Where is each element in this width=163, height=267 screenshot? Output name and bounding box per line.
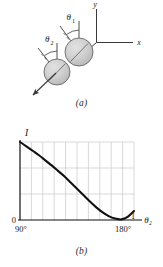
figure-container: y x θ 1 θ 2 bbox=[0, 0, 163, 267]
panel-b-caption: (b) bbox=[0, 246, 163, 256]
coordinate-axes bbox=[89, 9, 133, 49]
y-axis-label: I bbox=[24, 128, 29, 138]
x-tick-90: 90° bbox=[15, 224, 27, 234]
y-tick-1: 1 bbox=[131, 212, 135, 221]
theta1-label: θ 1 bbox=[67, 12, 76, 24]
theta2-label: θ 2 bbox=[45, 34, 54, 46]
theta2-symbol: θ bbox=[45, 34, 50, 44]
axis-label-y: y bbox=[92, 0, 97, 9]
upper-ball bbox=[65, 38, 93, 66]
theta2-subscript: 2 bbox=[51, 40, 54, 46]
theta1-symbol: θ bbox=[67, 12, 72, 22]
x-axis-label: θ₂ bbox=[144, 215, 152, 225]
x-tick-180: 180° bbox=[115, 224, 131, 234]
chart-axes bbox=[18, 140, 142, 220]
panel-a-caption: (a) bbox=[0, 98, 163, 108]
axis-label-x: x bbox=[136, 38, 141, 47]
theta1-subscript: 1 bbox=[72, 18, 75, 24]
